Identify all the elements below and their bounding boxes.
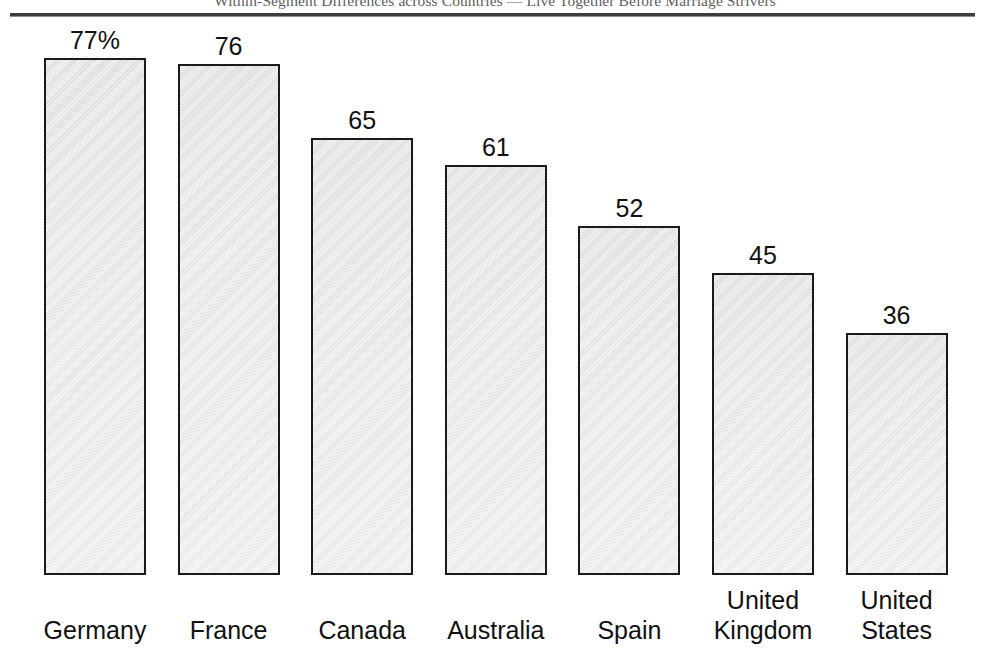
bar-value-label-united-kingdom: 45: [712, 243, 814, 268]
category-label-france: France: [156, 616, 302, 646]
category-label-canada: Canada: [289, 616, 435, 646]
bar-australia[interactable]: [445, 165, 547, 575]
category-label-united-states: United States: [824, 586, 970, 645]
bar-spain[interactable]: [578, 226, 680, 575]
bar-value-label-united-states: 36: [846, 303, 948, 328]
bar-united-kingdom[interactable]: [712, 273, 814, 575]
bar-value-label-canada: 65: [311, 108, 413, 133]
category-label-australia: Australia: [423, 616, 569, 646]
bar-value-label-australia: 61: [445, 135, 547, 160]
bar-germany[interactable]: [44, 58, 146, 575]
bar-canada[interactable]: [311, 138, 413, 575]
bar-value-label-spain: 52: [578, 196, 680, 221]
bar-value-label-germany: 77%: [44, 28, 146, 53]
bar-value-label-france: 76: [178, 34, 280, 59]
category-label-spain: Spain: [556, 616, 702, 646]
category-label-united-kingdom: United Kingdom: [690, 586, 836, 645]
chart-page: Within-Segment Differences across Countr…: [0, 0, 990, 669]
category-label-germany: Germany: [22, 616, 168, 646]
bar-united-states[interactable]: [846, 333, 948, 575]
bar-france[interactable]: [178, 64, 280, 575]
bar-chart-plot-area: 77%Germany76France65Canada61Australia52S…: [0, 0, 990, 669]
